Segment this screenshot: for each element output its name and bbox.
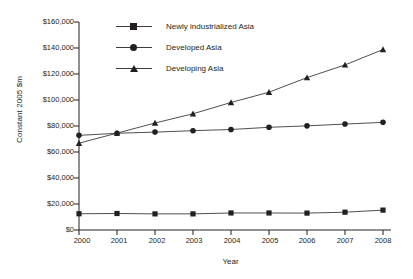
line-chart: Constant 2005 $m $160,000 $140,000 $120,… [0,0,413,279]
data-point [152,129,158,135]
data-point [342,62,348,68]
series-developed-asia [76,120,386,139]
data-point [228,127,234,133]
y-axis-ticks [74,22,79,230]
triangle-marker-icon [116,63,152,75]
data-point [266,210,271,215]
data-point [380,46,386,52]
square-marker-icon [116,21,152,33]
legend-item-developed-asia: Developed Asia [116,37,254,58]
data-point [304,74,310,80]
data-point [190,211,195,216]
data-point [304,211,309,216]
data-point [228,210,233,215]
legend-item-label: Developing Asia [152,64,223,73]
data-point [190,128,196,134]
data-point [266,89,272,95]
data-point [342,210,347,215]
data-point [114,211,119,216]
legend-item-label: Developed Asia [152,43,222,52]
circle-marker-icon [116,42,152,54]
data-point [76,133,82,139]
chart-legend: Newly industrialized Asia Developed Asia… [116,16,254,79]
series-newly-industrialized-asia [76,208,385,217]
data-point [380,120,386,126]
data-point [380,208,385,213]
data-point [266,125,272,131]
data-point [152,211,157,216]
data-point [342,121,348,127]
legend-item-newly-industrialized-asia: Newly industrialized Asia [116,16,254,37]
x-axis-ticks [79,230,383,235]
legend-item-developing-asia: Developing Asia [116,58,254,79]
legend-item-label: Newly industrialized Asia [152,22,254,31]
data-point [76,211,81,216]
data-point [304,123,310,129]
